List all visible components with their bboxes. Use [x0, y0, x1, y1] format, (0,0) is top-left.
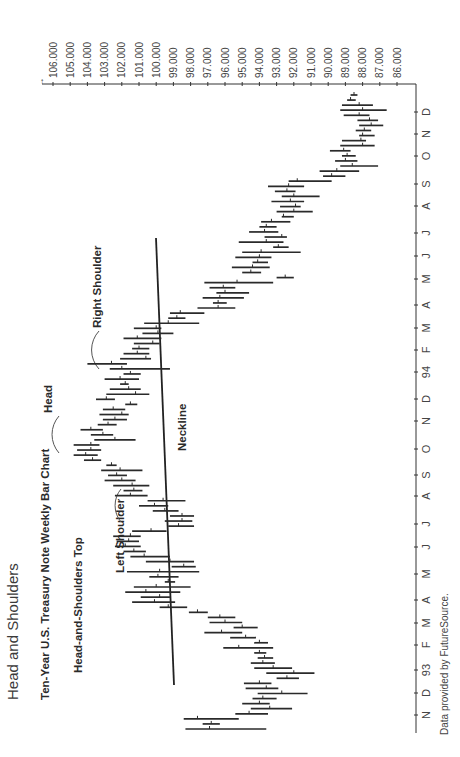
month-tick-label: D [420, 689, 432, 697]
month-tick-label: M [420, 323, 432, 332]
axis-arrow-icon: ↑ [40, 77, 44, 86]
price-tick-label: 105.000 [65, 41, 76, 78]
month-tick-label: M [420, 274, 432, 283]
price-tick-label: 102.000 [116, 41, 127, 78]
month-tick-label: 94 [420, 366, 432, 378]
month-tick-label: M [420, 569, 432, 578]
page-title: Head and Shoulders [4, 563, 21, 700]
price-tick-label: 94.000 [254, 47, 265, 78]
month-tick-label: A [420, 492, 432, 500]
price-tick-labels: 106.000105.000104.000103.000102.000101.0… [48, 41, 403, 86]
chart-title: Ten-Year U.S. Treasury Note Weekly Bar C… [39, 448, 51, 700]
price-tick-label: 86.000 [392, 47, 403, 78]
price-tick-label: 99.000 [168, 47, 179, 78]
month-tick-labels: ND93FMAMJJASOND94FMAMJJASOND [414, 108, 432, 719]
month-tick-label: J [420, 253, 432, 259]
month-tick-label: O [420, 444, 432, 453]
month-tick-label: N [420, 417, 432, 425]
month-tick-label: A [420, 596, 432, 604]
neckline [156, 238, 174, 685]
price-tick-label: 104.000 [82, 41, 93, 78]
price-tick-label: 100.000 [151, 41, 162, 78]
month-tick-label: S [420, 471, 432, 478]
price-bars [74, 92, 387, 729]
source-note: Data provided by FutureSource. [439, 593, 450, 735]
chart-canvas: Head and Shoulders Ten-Year U.S. Treasur… [0, 0, 460, 757]
month-tick-label: J [420, 230, 432, 236]
price-tick-label: 98.000 [185, 47, 196, 78]
month-tick-label: D [420, 395, 432, 403]
price-tick-label: 96.000 [220, 47, 231, 78]
price-tick-label: 93.000 [271, 47, 282, 78]
price-tick-label: 88.000 [357, 47, 368, 78]
month-tick-label: J [420, 544, 432, 550]
pattern-label: Head-and-Shoulders Top [72, 537, 84, 673]
month-tick-label: N [420, 130, 432, 138]
price-tick-label: 90.000 [323, 47, 334, 78]
price-tick-label: 89.000 [340, 47, 351, 78]
month-tick-label: F [420, 641, 432, 648]
month-tick-label: F [420, 346, 432, 353]
price-tick-label: 91.000 [306, 47, 317, 78]
price-tick-label: 92.000 [288, 47, 299, 78]
price-tick-label: 95.000 [237, 47, 248, 78]
right-shoulder-label: Right Shoulder [91, 245, 103, 328]
price-tick-label: 106.000 [48, 41, 59, 78]
neckline-label: Neckline [176, 404, 188, 451]
month-tick-label: A [420, 301, 432, 309]
month-tick-label: S [420, 180, 432, 187]
month-tick-label: J [420, 521, 432, 527]
month-tick-label: N [420, 711, 432, 719]
month-tick-label: 93 [420, 664, 432, 676]
price-tick-label: 103.000 [99, 41, 110, 78]
month-tick-label: M [420, 618, 432, 627]
head-arc [52, 416, 59, 453]
month-tick-label: A [420, 202, 432, 210]
price-tick-label: 97.000 [202, 47, 213, 78]
price-tick-label: 101.000 [134, 41, 145, 78]
month-tick-label: D [420, 108, 432, 116]
price-tick-label: 87.000 [374, 47, 385, 78]
month-tick-label: O [420, 151, 432, 160]
head-label: Head [42, 385, 54, 413]
